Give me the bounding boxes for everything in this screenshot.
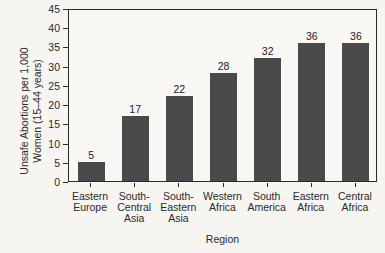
x-axis-title: Region	[68, 233, 377, 245]
bar-value-label: 36	[350, 30, 362, 42]
bar-south-central-asia	[122, 116, 149, 181]
y-tick-label-10: 10	[38, 138, 60, 150]
x-tick-mark	[134, 183, 135, 187]
y-tick-label-35: 35	[38, 41, 60, 53]
x-tick-mark	[267, 183, 268, 187]
x-tick-mark	[311, 183, 312, 187]
y-tick-label-25: 25	[38, 80, 60, 92]
y-tick-label-0: 0	[38, 176, 60, 188]
bar-value-label: 36	[306, 30, 318, 42]
bar-south-america	[254, 58, 281, 181]
y-tick-label-40: 40	[38, 22, 60, 34]
plot-area: 5172228323636	[68, 9, 377, 182]
bar-value-label: 28	[218, 60, 230, 72]
bar-value-label: 5	[88, 149, 94, 161]
x-category-label-central-africa: CentralAfrica	[328, 191, 382, 213]
x-tick-mark	[178, 183, 179, 187]
y-tick-mark	[63, 182, 68, 183]
bar-western-africa	[210, 73, 237, 181]
x-tick-mark	[223, 183, 224, 187]
y-tick-label-5: 5	[38, 157, 60, 169]
bar-south-eastern-asia	[166, 96, 193, 181]
bar-eastern-europe	[78, 162, 105, 181]
bar-value-label: 32	[262, 45, 274, 57]
y-tick-label-15: 15	[38, 118, 60, 130]
bar-eastern-africa	[298, 43, 325, 181]
bar-chart-figure: Unsafe Abortions per 1,000 Women (15–44 …	[0, 0, 385, 253]
y-tick-label-45: 45	[38, 3, 60, 15]
bar-central-africa	[342, 43, 369, 181]
bar-value-label: 22	[174, 83, 186, 95]
x-tick-mark	[90, 183, 91, 187]
y-axis-label-line-1: Unsafe Abortions per 1,000	[18, 16, 31, 206]
x-tick-mark	[355, 183, 356, 187]
bar-value-label: 17	[129, 103, 141, 115]
y-tick-label-30: 30	[38, 61, 60, 73]
y-tick-label-20: 20	[38, 99, 60, 111]
